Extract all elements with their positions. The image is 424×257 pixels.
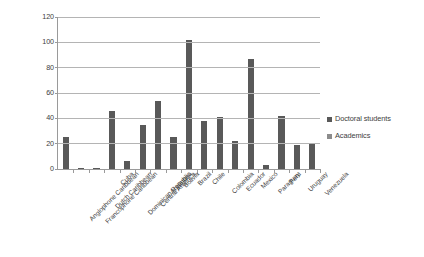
legend-item-doctoral-students[interactable]: Doctoral students xyxy=(327,114,424,124)
y-tick-20 xyxy=(55,143,58,144)
bar-doctoral-students-anglophone-caribbean xyxy=(63,137,69,169)
bar-doctoral-students-paraguay xyxy=(263,165,269,169)
bar-doctoral-students-dutch-caribbean xyxy=(93,168,99,169)
y-tick-100 xyxy=(55,42,58,43)
y-tick-80 xyxy=(55,67,58,68)
y-tick-label-0: 0 xyxy=(50,165,54,172)
x-axis-label-peru: Peru xyxy=(288,171,302,185)
y-tick-120 xyxy=(55,17,58,18)
plot-area xyxy=(57,17,320,170)
gridline-80 xyxy=(58,67,320,68)
y-tick-label-60: 60 xyxy=(46,89,54,96)
bar-doctoral-students-francophone-caribbean xyxy=(78,168,84,169)
bar-doctoral-students-argentina xyxy=(155,101,161,169)
gridline-100 xyxy=(58,42,320,43)
bar-doctoral-students-central-america xyxy=(140,125,146,169)
bar-doctoral-students-uruguay xyxy=(294,145,300,169)
y-tick-0 xyxy=(55,169,58,170)
gridline-40 xyxy=(58,118,320,119)
y-axis: 020406080100120 xyxy=(28,17,54,169)
y-tick-label-100: 100 xyxy=(42,39,54,46)
gridline-20 xyxy=(58,143,320,144)
plot-wrapper: 020406080100120 Anglophone CaribbeanFran… xyxy=(0,0,330,257)
x-axis-labels: Anglophone CaribbeanFrancophone Caribbea… xyxy=(57,171,319,257)
bar-chart: 020406080100120 Anglophone CaribbeanFran… xyxy=(0,0,424,257)
bar-doctoral-students-brazil xyxy=(186,40,192,169)
y-tick-label-80: 80 xyxy=(46,64,54,71)
gridline-60 xyxy=(58,93,320,94)
y-tick-label-120: 120 xyxy=(42,13,54,20)
bar-doctoral-students-ecuador xyxy=(232,141,238,169)
y-tick-60 xyxy=(55,93,58,94)
bar-doctoral-students-bolivia xyxy=(170,137,176,169)
legend-swatch-icon xyxy=(327,134,332,139)
x-axis-label-chile: Chile xyxy=(212,171,227,186)
legend-label: Doctoral students xyxy=(335,115,391,122)
bar-doctoral-students-chile xyxy=(201,121,207,169)
legend-item-academics[interactable]: Academics xyxy=(327,131,424,141)
bar-doctoral-students-cuba xyxy=(109,111,115,169)
bar-doctoral-students-dominican-republic xyxy=(124,161,130,169)
legend-label: Academics xyxy=(335,132,370,139)
chart-legend: Doctoral studentsAcademics xyxy=(327,114,424,148)
y-tick-label-40: 40 xyxy=(46,115,54,122)
legend-swatch-icon xyxy=(327,117,332,122)
y-tick-label-20: 20 xyxy=(46,140,54,147)
gridline-120 xyxy=(58,17,320,18)
y-tick-40 xyxy=(55,118,58,119)
bar-doctoral-students-mexico xyxy=(248,59,254,169)
bar-doctoral-students-venezuela xyxy=(309,144,315,169)
